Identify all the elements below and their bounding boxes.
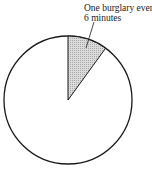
- slice-annotation: One burglary every 6 minutes: [84, 3, 152, 23]
- annotation-line-1: One burglary every: [84, 3, 152, 13]
- pie-chart: [0, 0, 152, 169]
- annotation-line-2: 6 minutes: [84, 13, 152, 23]
